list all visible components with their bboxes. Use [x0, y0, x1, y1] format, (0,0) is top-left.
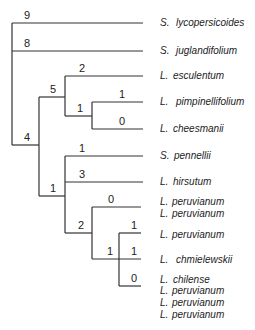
branch-length: 5 — [50, 83, 56, 95]
branch-length: 1 — [79, 142, 85, 154]
branch-length: 2 — [78, 219, 84, 231]
taxon-label: S.pennellii — [160, 150, 211, 161]
phylogenetic-tree: 9 8 2 5 1 1 0 4 1 3 1 0 2 1 1 1 0 S.lyco… — [0, 0, 255, 330]
branch-length: 2 — [79, 62, 85, 74]
branch-length: 1 — [131, 245, 137, 257]
taxon-label: L.peruvianum — [160, 208, 224, 219]
taxon-label: L.cheesmanii — [160, 123, 224, 134]
taxon-label: L.esculentum — [160, 70, 224, 81]
branch-length: 0 — [108, 193, 114, 205]
taxon-label: L.pimpinellifolium — [160, 96, 244, 107]
branch-length: 1 — [77, 102, 83, 114]
branch-length: 0 — [131, 272, 137, 284]
branch-length: 9 — [24, 9, 30, 21]
branch-length: 8 — [24, 37, 30, 49]
branch-length: 1 — [107, 245, 113, 257]
taxon-label: L.peruvianum — [160, 196, 224, 207]
branch-length: 3 — [79, 168, 85, 180]
taxon-label: L.chilense — [160, 274, 210, 285]
taxon-label: L.peruvianum — [160, 285, 224, 296]
branch-length-labels: 9 8 2 5 1 1 0 4 1 3 1 0 2 1 1 1 0 — [24, 9, 137, 284]
taxon-label: L.peruvianum — [160, 229, 224, 240]
taxon-labels: S.lycopersicoides S.juglandifolium L.esc… — [160, 17, 244, 320]
branch-length: 1 — [119, 88, 125, 100]
taxon-label: S.juglandifolium — [160, 45, 237, 56]
branch-length: 4 — [24, 131, 30, 143]
taxon-label: L.peruvianum — [160, 297, 224, 308]
taxon-label: S.lycopersicoides — [160, 17, 244, 28]
branch-length: 1 — [131, 219, 137, 231]
taxon-label: L.chmielewskii — [160, 254, 233, 265]
branch-length: 0 — [119, 115, 125, 127]
branch-length: 1 — [50, 182, 56, 194]
taxon-label: L.peruvianum — [160, 309, 224, 320]
taxon-label: L.hirsutum — [160, 176, 211, 187]
